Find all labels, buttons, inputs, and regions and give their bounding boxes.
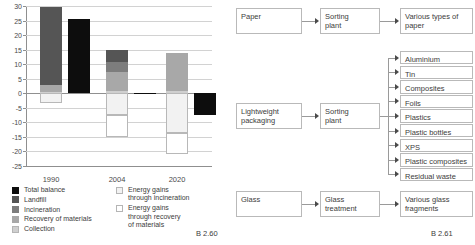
bar-segment	[106, 62, 128, 72]
legend-swatch-icon	[12, 187, 19, 194]
flow-process-lightweight-packaging: Sorting plant	[320, 103, 380, 129]
figure-reference-right: B 2.61	[431, 229, 453, 238]
y-axis-label: 25	[2, 17, 22, 24]
y-axis-label: -15	[2, 133, 22, 140]
arrow-icon	[395, 201, 399, 207]
bar-segment	[106, 93, 128, 115]
legend-label: Collection	[24, 225, 55, 233]
bar-segment	[40, 85, 62, 91]
flow-output-lightweight-packaging-6: XPS	[400, 139, 473, 152]
legend-label: Incineration	[24, 206, 60, 214]
bar-segment	[166, 53, 188, 91]
connector-line	[388, 58, 395, 59]
legend-swatch-icon	[12, 226, 19, 233]
bar-segment	[166, 133, 188, 154]
legend-item: Landfill	[12, 196, 110, 204]
bar-segment	[40, 7, 62, 85]
connector-line	[388, 72, 395, 73]
y-tick-mark	[23, 151, 26, 152]
legend-swatch-icon	[12, 196, 19, 203]
flow-input-lightweight-packaging: Lightweight packaging	[236, 103, 302, 129]
connector-line	[302, 204, 316, 205]
y-tick-mark	[23, 122, 26, 123]
flow-output-lightweight-packaging-0: Aluminium	[400, 51, 473, 64]
total-balance-bar	[194, 93, 216, 115]
figure-reference-left: B 2.60	[196, 229, 218, 238]
y-tick-mark	[23, 166, 26, 167]
flow-process-glass: Glass treatment	[320, 191, 380, 217]
bar-segment	[106, 72, 128, 91]
flow-output-paper: Various types of paper	[400, 8, 473, 34]
legend-item: Energy gains through incineration	[116, 186, 234, 203]
legend-label: Total balance	[24, 186, 65, 194]
flow-output-lightweight-packaging-8: Residual waste	[400, 168, 473, 181]
legend-label: Energy gains through incineration	[128, 186, 190, 203]
flow-output-lightweight-packaging-1: Tin	[400, 66, 473, 79]
y-axis-label: 10	[2, 61, 22, 68]
connector-line	[302, 21, 316, 22]
y-axis-label: -25	[2, 163, 22, 170]
bar-segment	[106, 115, 128, 137]
connector-line	[388, 87, 395, 88]
arrow-icon	[395, 18, 399, 24]
x-axis-label: 2004	[109, 176, 126, 184]
flow-output-lightweight-packaging-5: Plastic bottles	[400, 124, 473, 137]
gridline	[26, 166, 212, 167]
stacked-bar-chart: 302520151050-5-10-15-20-25 199020042020 …	[0, 0, 232, 245]
legend-label: Energy gains through recovery of materia…	[128, 204, 181, 229]
y-tick-mark	[23, 93, 26, 94]
stacked-bar	[166, 6, 188, 166]
y-axis-label: 30	[2, 3, 22, 10]
arrow-icon	[395, 171, 399, 177]
y-tick-mark	[23, 64, 26, 65]
x-axis-label: 1990	[43, 176, 60, 184]
flow-input-glass: Glass	[236, 191, 302, 217]
connector-line	[388, 174, 395, 175]
legend-item: Energy gains through recovery of materia…	[116, 204, 234, 229]
bar-segment	[106, 50, 128, 62]
flow-process-paper: Sorting plant	[320, 8, 380, 34]
connector-line	[302, 116, 316, 117]
y-axis-label: 15	[2, 46, 22, 53]
legend-item: Collection	[12, 225, 110, 233]
y-axis-label: -10	[2, 119, 22, 126]
y-axis-label: 20	[2, 32, 22, 39]
connector-line	[380, 21, 396, 22]
arrow-icon	[315, 18, 319, 24]
flow-input-paper: Paper	[236, 8, 302, 34]
y-tick-mark	[23, 35, 26, 36]
connector-line	[380, 204, 396, 205]
arrow-icon	[395, 128, 399, 134]
flow-output-lightweight-packaging-3: Foils	[400, 95, 473, 108]
y-axis-label: -5	[2, 104, 22, 111]
arrow-icon	[395, 142, 399, 148]
legend-swatch-icon	[12, 206, 19, 213]
arrow-icon	[315, 201, 319, 207]
connector-line	[388, 160, 395, 161]
y-tick-mark	[23, 137, 26, 138]
arrow-icon	[395, 84, 399, 90]
bar-segment	[40, 93, 62, 103]
figure-root: 302520151050-5-10-15-20-25 199020042020 …	[0, 0, 475, 245]
arrow-icon	[395, 113, 399, 119]
legend-column-energy-gains: Energy gains through incinerationEnergy …	[116, 186, 234, 231]
legend-swatch-icon	[116, 187, 123, 194]
flow-output-glass: Various glass fragments	[400, 191, 473, 217]
total-balance-bar	[68, 19, 90, 93]
flow-output-lightweight-packaging-7: Plastic composites	[400, 153, 473, 166]
arrow-icon	[395, 157, 399, 163]
arrow-icon	[395, 98, 399, 104]
x-axis-label: 2020	[169, 176, 186, 184]
stacked-bar	[106, 6, 128, 166]
arrow-icon	[395, 69, 399, 75]
stacked-bar	[40, 6, 62, 166]
material-flow-diagram: PaperSorting plantVarious types of paper…	[232, 0, 475, 245]
legend-label: Landfill	[24, 196, 46, 204]
y-tick-mark	[23, 50, 26, 51]
connector-line	[388, 101, 395, 102]
legend-column-primary: Total balanceLandfillIncinerationRecover…	[12, 186, 110, 235]
connector-line	[388, 145, 395, 146]
legend-label: Recovery of materials	[24, 215, 92, 223]
legend-item: Total balance	[12, 186, 110, 194]
legend-swatch-icon	[116, 205, 123, 212]
